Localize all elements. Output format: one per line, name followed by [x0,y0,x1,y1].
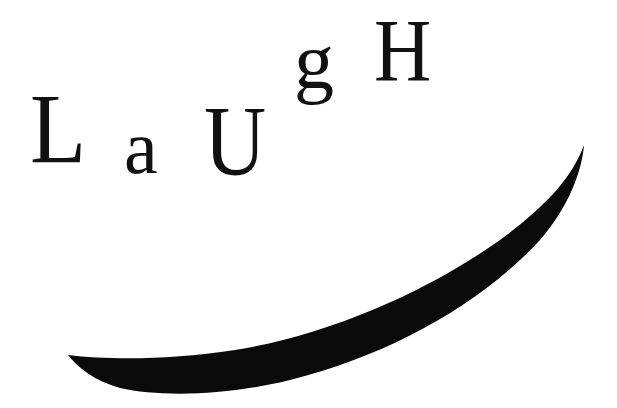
smile-crescent-path [68,145,584,394]
laugh-typographic-artwork: L a U g H [0,0,617,408]
smile-crescent-shape [0,0,617,408]
